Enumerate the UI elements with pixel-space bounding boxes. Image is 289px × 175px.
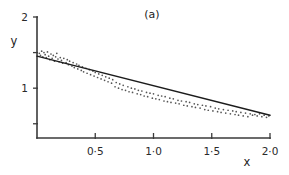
data-point bbox=[266, 117, 268, 119]
data-point bbox=[149, 92, 151, 94]
data-point bbox=[131, 87, 133, 89]
data-point bbox=[238, 114, 240, 116]
data-point bbox=[197, 104, 199, 106]
data-point bbox=[114, 86, 116, 88]
data-point bbox=[155, 98, 157, 100]
data-point bbox=[210, 106, 212, 108]
data-point bbox=[202, 104, 204, 106]
data-point bbox=[252, 114, 254, 116]
data-point bbox=[161, 95, 163, 97]
data-point bbox=[167, 101, 169, 103]
data-point bbox=[225, 112, 227, 114]
data-point bbox=[169, 97, 171, 99]
data-point bbox=[153, 93, 155, 95]
data-point bbox=[50, 53, 52, 55]
data-point bbox=[61, 60, 63, 62]
x-tick-label: 1·0 bbox=[145, 145, 162, 157]
data-point bbox=[41, 50, 43, 52]
data-point bbox=[207, 109, 209, 111]
y-tick-label: 2 bbox=[21, 11, 28, 23]
data-point bbox=[193, 103, 195, 105]
data-point bbox=[157, 94, 159, 96]
data-point bbox=[66, 59, 68, 61]
data-point bbox=[256, 115, 258, 117]
data-point bbox=[143, 95, 145, 97]
data-point bbox=[178, 103, 180, 105]
data-point bbox=[108, 77, 110, 79]
data-point bbox=[163, 100, 165, 102]
data-point bbox=[204, 109, 206, 111]
data-point bbox=[72, 62, 74, 64]
data-point bbox=[189, 102, 191, 104]
data-point bbox=[47, 51, 49, 53]
data-point bbox=[52, 55, 54, 57]
data-point bbox=[138, 89, 140, 91]
data-point bbox=[55, 56, 57, 58]
data-point bbox=[195, 107, 197, 109]
data-point bbox=[97, 77, 99, 79]
data-point bbox=[76, 63, 78, 65]
data-point bbox=[118, 87, 120, 89]
data-point bbox=[128, 91, 130, 93]
data-point bbox=[48, 55, 50, 57]
data-point bbox=[63, 57, 65, 59]
fit-line bbox=[37, 56, 270, 115]
data-point bbox=[214, 107, 216, 109]
data-point bbox=[132, 92, 134, 94]
data-point bbox=[93, 75, 95, 77]
data-point bbox=[234, 114, 236, 116]
data-point bbox=[232, 110, 234, 112]
data-point bbox=[247, 116, 249, 118]
data-point bbox=[164, 96, 166, 98]
data-point bbox=[172, 98, 174, 100]
data-point bbox=[121, 89, 123, 91]
data-point bbox=[240, 112, 242, 114]
data-point bbox=[122, 84, 124, 86]
data-point bbox=[235, 111, 237, 113]
data-point bbox=[177, 99, 179, 101]
data-point bbox=[151, 97, 153, 99]
axes bbox=[33, 17, 270, 139]
data-point bbox=[104, 80, 106, 82]
x-tick-label: 1·5 bbox=[203, 145, 220, 157]
data-point bbox=[186, 105, 188, 107]
data-point bbox=[105, 76, 107, 78]
data-point bbox=[40, 55, 42, 57]
regression-line bbox=[37, 56, 270, 115]
y-axis-label: y bbox=[11, 34, 18, 48]
data-point bbox=[73, 67, 75, 69]
data-point bbox=[69, 60, 71, 62]
data-point bbox=[158, 99, 160, 101]
data-point bbox=[86, 72, 88, 74]
data-point bbox=[136, 93, 138, 95]
data-point bbox=[98, 73, 100, 75]
data-point bbox=[254, 114, 256, 116]
data-point bbox=[127, 86, 129, 88]
data-point bbox=[185, 101, 187, 103]
data-point bbox=[205, 105, 207, 107]
axis-labels: 120·51·01·52·0yx(a) bbox=[11, 8, 279, 169]
data-points bbox=[38, 50, 269, 118]
data-point bbox=[90, 74, 92, 76]
y-tick-label: 1 bbox=[21, 82, 28, 94]
data-point bbox=[119, 83, 121, 85]
x-tick-label: 2·0 bbox=[262, 145, 279, 157]
data-point bbox=[125, 89, 127, 91]
data-point bbox=[44, 54, 46, 56]
figure-panel: 120·51·01·52·0yx(a) bbox=[0, 0, 289, 175]
x-tick-label: 0·5 bbox=[87, 145, 104, 157]
data-point bbox=[38, 52, 40, 54]
data-point bbox=[175, 102, 177, 104]
data-point bbox=[146, 92, 148, 94]
data-point bbox=[223, 109, 225, 111]
data-point bbox=[43, 52, 45, 54]
data-point bbox=[80, 70, 82, 72]
data-point bbox=[245, 112, 247, 114]
data-point bbox=[51, 57, 53, 59]
data-point bbox=[140, 94, 142, 96]
data-point bbox=[183, 104, 185, 106]
data-point bbox=[261, 116, 263, 118]
data-point bbox=[112, 79, 114, 81]
data-point bbox=[147, 96, 149, 98]
data-point bbox=[141, 90, 143, 92]
